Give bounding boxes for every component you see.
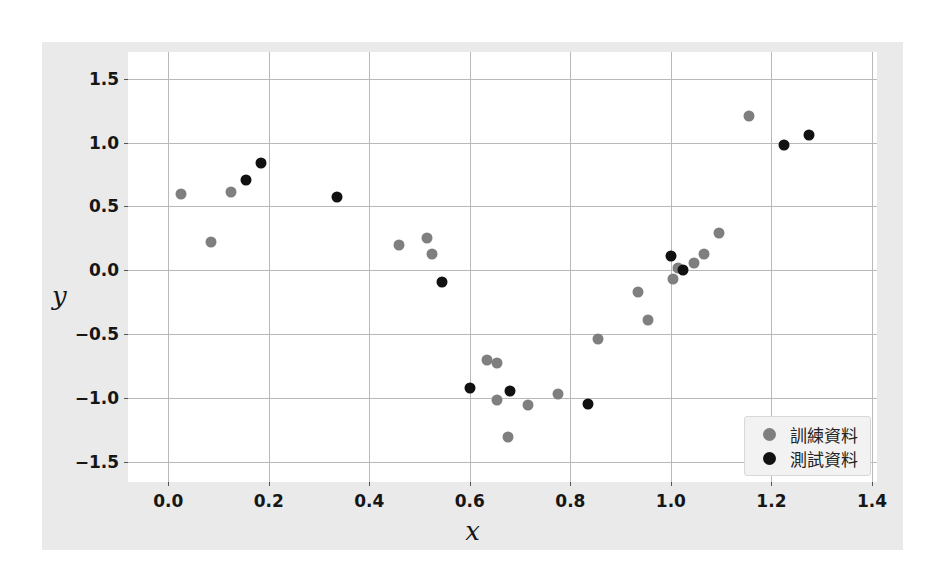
data-point-series-0 — [633, 286, 644, 297]
data-point-series-0 — [492, 358, 503, 369]
data-point-series-0 — [422, 233, 433, 244]
gridline-horizontal — [128, 143, 877, 144]
legend-item[interactable]: 訓練資料 — [755, 423, 858, 445]
data-point-series-0 — [492, 395, 503, 406]
gridline-horizontal — [128, 79, 877, 80]
gridline-vertical — [369, 52, 370, 482]
x-tick-mark — [269, 482, 270, 486]
gridline-horizontal — [128, 270, 877, 271]
y-tick-label: −0.5 — [75, 324, 119, 344]
data-point-series-1 — [678, 265, 689, 276]
x-tick-mark — [369, 482, 370, 486]
data-point-series-0 — [552, 388, 563, 399]
legend[interactable]: 訓練資料測試資料 — [744, 416, 871, 476]
y-axis-title: y — [52, 281, 67, 311]
data-point-series-1 — [582, 399, 593, 410]
data-point-series-0 — [713, 228, 724, 239]
data-point-series-0 — [743, 110, 754, 121]
gridline-vertical — [671, 52, 672, 482]
gridline-vertical — [168, 52, 169, 482]
data-point-series-0 — [427, 248, 438, 259]
data-point-series-0 — [593, 334, 604, 345]
x-tick-label: 1.2 — [756, 491, 786, 511]
x-tick-mark — [872, 482, 873, 486]
gridline-vertical — [570, 52, 571, 482]
legend-marker-icon — [763, 428, 776, 441]
legend-item[interactable]: 測試資料 — [755, 447, 858, 469]
gridline-horizontal — [128, 334, 877, 335]
y-tick-mark — [124, 398, 128, 399]
gridline-vertical — [872, 52, 873, 482]
x-tick-label: 0.6 — [455, 491, 485, 511]
gridline-vertical — [269, 52, 270, 482]
y-tick-label: 1.0 — [89, 133, 119, 153]
x-axis-title: x — [42, 516, 903, 546]
gridline-vertical — [470, 52, 471, 482]
data-point-series-1 — [464, 382, 475, 393]
data-point-series-1 — [665, 251, 676, 262]
data-point-series-1 — [804, 129, 815, 140]
y-tick-label: 0.0 — [89, 260, 119, 280]
x-tick-label: 1.0 — [656, 491, 686, 511]
x-tick-mark — [570, 482, 571, 486]
y-tick-mark — [124, 270, 128, 271]
y-tick-label: −1.5 — [75, 452, 119, 472]
x-tick-label: 0.0 — [153, 491, 183, 511]
gridline-horizontal — [128, 206, 877, 207]
x-tick-label: 0.8 — [555, 491, 585, 511]
data-point-series-0 — [668, 274, 679, 285]
data-point-series-0 — [522, 400, 533, 411]
y-tick-mark — [124, 79, 128, 80]
data-point-series-0 — [502, 432, 513, 443]
data-point-series-1 — [779, 140, 790, 151]
data-point-series-1 — [256, 158, 267, 169]
x-tick-mark — [168, 482, 169, 486]
x-tick-label: 0.4 — [354, 491, 384, 511]
data-point-series-1 — [241, 174, 252, 185]
y-tick-mark — [124, 462, 128, 463]
data-point-series-0 — [698, 248, 709, 259]
x-tick-mark — [771, 482, 772, 486]
x-tick-label: 0.2 — [254, 491, 284, 511]
y-tick-mark — [124, 334, 128, 335]
data-point-series-0 — [205, 237, 216, 248]
x-tick-mark — [470, 482, 471, 486]
y-tick-label: 0.5 — [89, 196, 119, 216]
figure-canvas: y x 1.51.00.50.0−0.5−1.0−1.5 0.00.20.40.… — [42, 42, 903, 550]
data-point-series-0 — [394, 239, 405, 250]
y-tick-label: −1.0 — [75, 388, 119, 408]
data-point-series-0 — [643, 314, 654, 325]
legend-marker-icon — [763, 452, 776, 465]
data-point-series-0 — [226, 187, 237, 198]
data-point-series-1 — [331, 192, 342, 203]
data-point-series-0 — [175, 188, 186, 199]
x-tick-mark — [671, 482, 672, 486]
y-tick-mark — [124, 143, 128, 144]
y-tick-label: 1.5 — [89, 69, 119, 89]
plot-area: 訓練資料測試資料 — [128, 52, 877, 482]
data-point-series-1 — [505, 386, 516, 397]
data-point-series-0 — [688, 257, 699, 268]
scatter-plot-screenshot: y x 1.51.00.50.0−0.5−1.0−1.5 0.00.20.40.… — [0, 0, 941, 578]
legend-label: 訓練資料 — [790, 422, 858, 447]
data-point-series-1 — [437, 276, 448, 287]
y-tick-mark — [124, 206, 128, 207]
legend-label: 測試資料 — [790, 446, 858, 471]
x-tick-label: 1.4 — [857, 491, 887, 511]
